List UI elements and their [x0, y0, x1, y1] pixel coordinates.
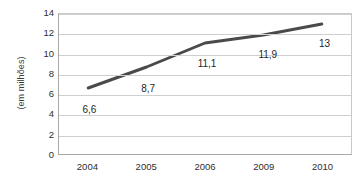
data-point-label: 11,9	[246, 49, 290, 61]
y-axis-tick-label: 2	[27, 130, 54, 140]
chart-screenshot: (em milhões) 14121086420 200420052006200…	[0, 0, 362, 183]
y-axis-tick-label: 10	[27, 49, 54, 59]
y-axis-title: (em milhões)	[14, 10, 28, 156]
data-point-label: 6,6	[67, 104, 111, 116]
y-axis-tick-label: 14	[27, 8, 54, 18]
y-axis-tick-labels: 14121086420	[27, 0, 54, 183]
y-axis-tick-label: 4	[27, 109, 54, 119]
data-point-label: 8,7	[126, 83, 170, 95]
x-axis-tick-label: 2004	[62, 161, 112, 173]
gridline	[59, 34, 351, 35]
x-axis-tick-labels: 20042005200620092010	[58, 161, 352, 175]
x-axis-tick-label: 2006	[180, 161, 230, 173]
data-point-label: 11,1	[185, 58, 229, 70]
gridline	[59, 55, 351, 56]
x-axis-tick-label: 2005	[121, 161, 171, 173]
plot-area	[58, 13, 352, 155]
y-axis-tick-label: 6	[27, 89, 54, 99]
y-axis-tick-label: 8	[27, 69, 54, 79]
y-axis-tick-label: 0	[27, 150, 54, 160]
gridline	[59, 95, 351, 96]
gridline	[59, 136, 351, 137]
data-point-label: 13	[303, 38, 347, 50]
x-axis-tick-label: 2009	[239, 161, 289, 173]
gridline	[59, 75, 351, 76]
y-axis-tick-label: 12	[27, 28, 54, 38]
gridline	[59, 14, 351, 15]
x-axis-tick-label: 2010	[298, 161, 348, 173]
